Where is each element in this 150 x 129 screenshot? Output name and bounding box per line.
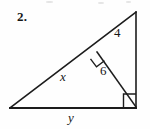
label-hypotenuse-upper: 4: [114, 26, 121, 39]
segment-altitude: [97, 52, 136, 107]
label-altitude: 6: [100, 64, 107, 77]
label-base: y: [68, 111, 74, 124]
geometry-figure: 2. 4 6 x y: [0, 0, 150, 129]
problem-number: 2.: [17, 10, 27, 23]
label-hypotenuse-lower: x: [60, 70, 66, 83]
